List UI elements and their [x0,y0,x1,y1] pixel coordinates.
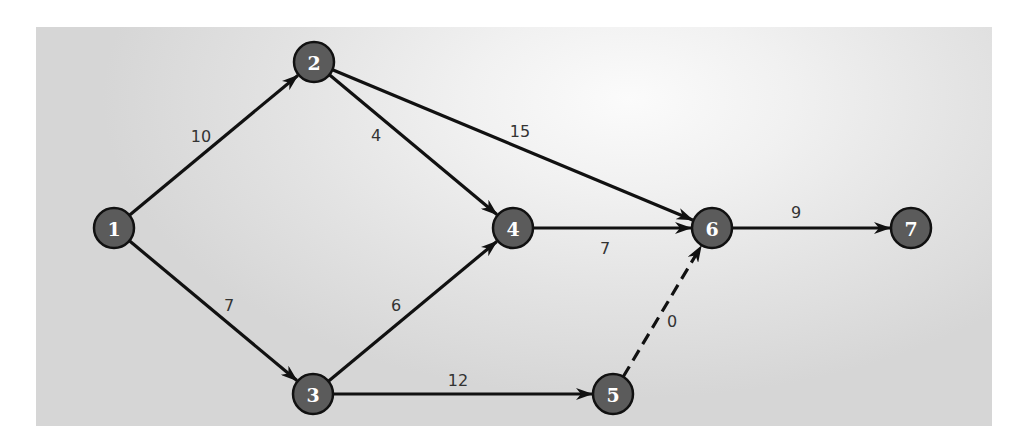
node-label: 6 [705,218,718,240]
node-7: 7 [891,208,931,248]
edge-weight-label-2-6: 15 [510,122,530,141]
node-3: 3 [293,374,333,414]
node-label: 7 [904,218,917,240]
node-label: 4 [506,218,519,240]
edge-weight-label-1-3: 7 [224,296,234,315]
node-4: 4 [493,208,533,248]
edge-weight-label-6-7: 9 [791,203,801,222]
edge-weight-label-1-2: 10 [191,127,211,146]
edge-3-to-4-arrow [328,241,496,381]
edge-1-to-2-arrow [129,75,297,215]
node-1: 1 [94,208,134,248]
edge-labels-layer: 107415612709 [191,122,801,390]
edge-weight-label-3-4: 6 [391,296,401,315]
node-label: 2 [307,52,320,74]
edge-5-to-6-dummy-arrow [623,246,701,377]
node-label: 1 [107,218,120,240]
node-label: 5 [606,384,619,406]
edge-weight-label-4-6: 7 [600,239,610,258]
edge-weight-label-2-4: 4 [371,126,381,145]
edge-weight-label-3-5: 12 [448,371,468,390]
edge-weight-label-5-6: 0 [667,312,677,331]
network-diagram: 107415612709 1234567 [0,0,1026,446]
node-5: 5 [593,374,633,414]
node-6: 6 [692,208,732,248]
edge-2-to-6-arrow [333,70,693,220]
edge-2-to-4-arrow [329,75,497,215]
edge-1-to-3-arrow [129,241,297,381]
node-2: 2 [294,42,334,82]
node-label: 3 [306,384,319,406]
